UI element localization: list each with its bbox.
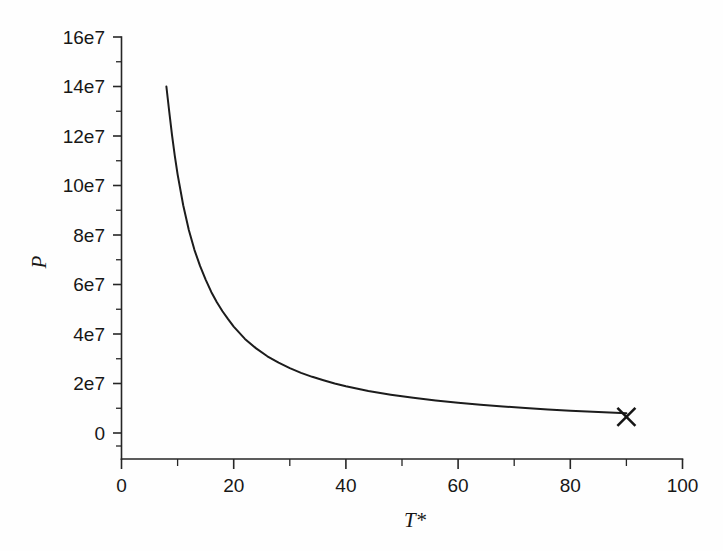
x-axis-minor-ticks [178, 459, 627, 466]
y-tick-label: 8e7 [73, 225, 105, 246]
x-tick-label: 100 [667, 475, 699, 496]
x-axis-tick-labels: 0 20 40 60 80 100 [116, 475, 698, 496]
y-tick-label: 2e7 [73, 373, 105, 394]
y-tick-label: 0 [94, 423, 105, 444]
y-tick-label: 12e7 [63, 126, 105, 147]
y-axis-tick-labels: 16e7 14e7 12e7 10e7 8e7 6e7 4e7 2e7 0 [63, 27, 105, 444]
y-tick-label: 6e7 [73, 274, 105, 295]
data-series-line [166, 87, 626, 414]
chart-figure: 16e7 14e7 12e7 10e7 8e7 6e7 4e7 2e7 0 0 … [0, 0, 723, 551]
x-axis-title: T* [404, 508, 427, 532]
y-tick-label: 4e7 [73, 324, 105, 345]
x-tick-label: 60 [448, 475, 469, 496]
y-tick-label: 10e7 [63, 175, 105, 196]
y-axis-major-ticks [113, 37, 122, 433]
x-tick-label: 40 [335, 475, 356, 496]
y-tick-label: 16e7 [63, 27, 105, 48]
x-tick-label: 0 [116, 475, 127, 496]
x-tick-label: 20 [223, 475, 244, 496]
y-tick-label: 14e7 [63, 76, 105, 97]
y-axis-title: P [27, 255, 51, 269]
chart-plot-area: 16e7 14e7 12e7 10e7 8e7 6e7 4e7 2e7 0 0 … [0, 0, 723, 551]
endpoint-marker-x-icon [617, 408, 635, 426]
y-axis-minor-ticks [116, 62, 122, 446]
x-tick-label: 80 [560, 475, 581, 496]
